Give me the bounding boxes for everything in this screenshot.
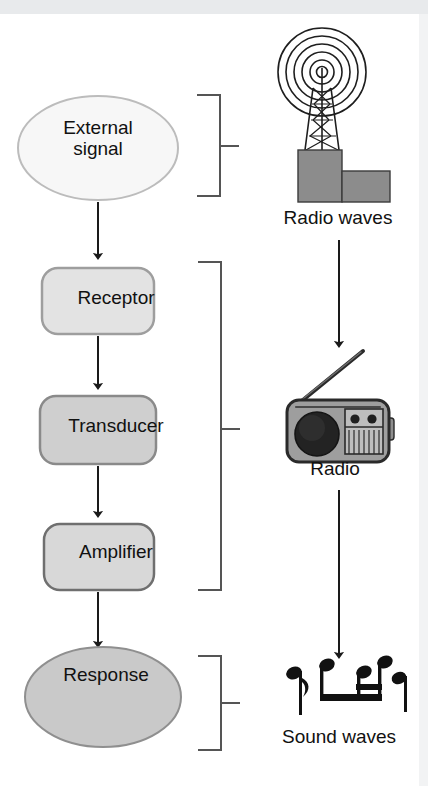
radio-tower-icon bbox=[278, 28, 390, 202]
figure-page: External signal Receptor Transducer Ampl… bbox=[0, 0, 428, 786]
diagram-stage: External signal Receptor Transducer Ampl… bbox=[0, 0, 428, 786]
radio-receiver-icon bbox=[287, 351, 394, 462]
node-label-response: Response bbox=[22, 664, 190, 685]
bracket-machinery bbox=[198, 262, 240, 590]
music-note-5 bbox=[390, 670, 409, 712]
music-notes-icon bbox=[284, 653, 408, 715]
node-response bbox=[25, 647, 181, 747]
caption-radio: Radio bbox=[275, 458, 395, 480]
node-label-transducer: Transducer bbox=[46, 415, 186, 436]
music-note-beamed-group bbox=[317, 653, 394, 701]
node-label-amplifier: Amplifier bbox=[52, 541, 180, 562]
node-label-external-signal: External signal bbox=[14, 117, 182, 160]
bracket-signal bbox=[197, 95, 239, 196]
caption-sound-waves: Sound waves bbox=[255, 726, 423, 748]
bracket-response bbox=[198, 656, 240, 750]
node-label-receptor: Receptor bbox=[52, 287, 180, 308]
caption-radio-waves: Radio waves bbox=[258, 207, 418, 229]
music-note-1 bbox=[284, 664, 308, 715]
